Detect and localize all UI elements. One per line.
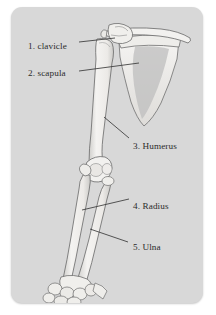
label-radius: 4. Radius <box>133 202 169 211</box>
label-humerus: 3. Humerus <box>133 142 177 151</box>
label-ulna: 5. Ulna <box>133 243 161 252</box>
label-scapula: 2. scapula <box>28 69 66 78</box>
humerus-shape <box>85 39 114 183</box>
skeleton-illustration <box>11 7 203 303</box>
scapula-shape <box>117 35 181 126</box>
leader-line-humerus <box>104 117 129 138</box>
wrist-and-hand-shape <box>43 275 107 303</box>
label-clavicle: 1. clavicle <box>28 42 67 51</box>
anatomy-figure-card: 1. clavicle 2. scapula 3. Humerus 4. Rad… <box>11 7 203 303</box>
shoulder-joint-shape <box>108 23 133 43</box>
